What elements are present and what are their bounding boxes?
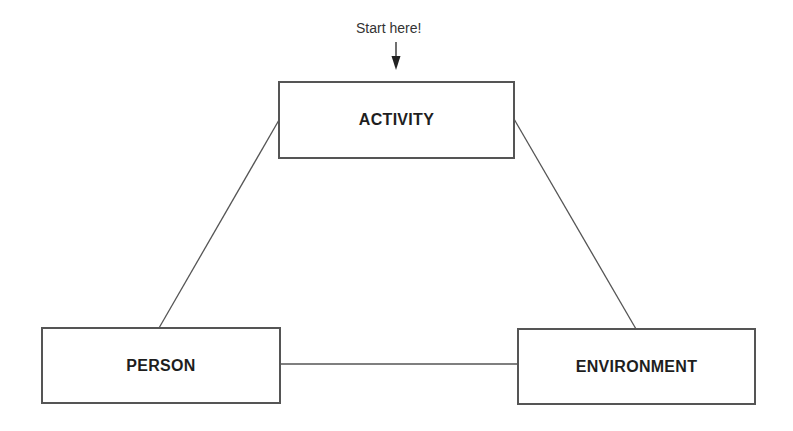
node-environment: ENVIRONMENT — [517, 328, 756, 405]
node-activity: ACTIVITY — [278, 81, 515, 159]
down-arrow-icon — [392, 42, 401, 70]
node-person-label: PERSON — [126, 357, 195, 375]
node-activity-label: ACTIVITY — [359, 111, 434, 129]
edge-activity-person — [159, 120, 279, 328]
start-here-annotation: Start here! — [356, 20, 421, 36]
node-environment-label: ENVIRONMENT — [576, 358, 698, 376]
node-person: PERSON — [41, 327, 281, 404]
edge-activity-environment — [514, 119, 636, 329]
